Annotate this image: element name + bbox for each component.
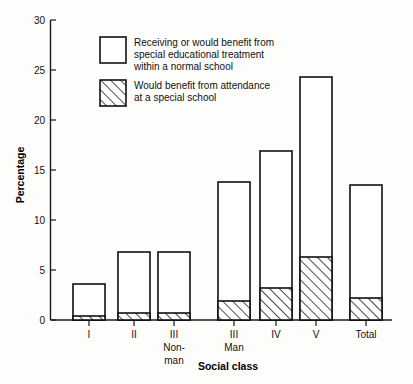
bar-hatched-III-man[interactable] — [218, 301, 250, 320]
x-label-V: V — [313, 329, 320, 340]
bar-hatched-V[interactable] — [300, 257, 332, 320]
y-axis-title: Percentage — [14, 147, 26, 204]
legend-label-hatched-line2: at a special school — [134, 92, 216, 103]
y-tick-label-15: 15 — [34, 165, 46, 176]
stacked-bar-chart: 30 25 20 15 10 5 0 Percentage — [0, 0, 413, 384]
bar-hatched-total[interactable] — [350, 298, 382, 320]
y-tick-label-20: 20 — [34, 115, 46, 126]
y-axis: 30 25 20 15 10 5 0 Percentage — [14, 15, 56, 326]
legend-item-open[interactable]: Receiving or would benefit from special … — [100, 37, 274, 72]
bar-open-II[interactable] — [118, 252, 150, 320]
x-axis-title: Social class — [198, 360, 258, 372]
bar-group-III-non-man[interactable] — [158, 252, 190, 320]
x-label-I: I — [88, 329, 91, 340]
y-tick-label-0: 0 — [39, 315, 45, 326]
bar-open-I[interactable] — [73, 284, 105, 320]
x-label-III-non-man: III — [170, 329, 178, 340]
bar-open-III-man[interactable] — [218, 182, 250, 320]
bar-group-III-man[interactable] — [218, 182, 250, 320]
bar-group-IV[interactable] — [260, 151, 292, 320]
x-label-III-non-man-line2: Non- — [163, 342, 185, 353]
x-axis-ticks — [89, 320, 366, 326]
legend-label-hatched-line1: Would benefit from attendance — [134, 80, 270, 91]
bar-group-I[interactable] — [73, 284, 105, 320]
legend-item-hatched[interactable]: Would benefit from attendance at a speci… — [100, 80, 270, 106]
bar-group-V[interactable] — [300, 77, 332, 320]
bar-hatched-I[interactable] — [73, 316, 105, 320]
x-label-IV: IV — [271, 329, 281, 340]
bar-hatched-II[interactable] — [118, 313, 150, 320]
y-tick-label-10: 10 — [34, 215, 46, 226]
x-label-II: II — [131, 329, 137, 340]
x-label-III-man-line2: Man — [224, 342, 243, 353]
legend-label-open-line2: special educational treatment — [134, 49, 264, 60]
legend-swatch-hatched — [100, 80, 126, 106]
legend-swatch-open — [100, 37, 126, 63]
y-tick-label-5: 5 — [39, 265, 45, 276]
x-label-III-non-man-line3: man — [164, 355, 183, 366]
bar-hatched-IV[interactable] — [260, 288, 292, 320]
bar-open-III-non-man[interactable] — [158, 252, 190, 320]
bar-group-II[interactable] — [118, 252, 150, 320]
bar-group-total[interactable] — [350, 185, 382, 320]
y-axis-tick-labels: 30 25 20 15 10 5 0 — [34, 15, 46, 326]
y-tick-label-25: 25 — [34, 65, 46, 76]
chart-legend: Receiving or would benefit from special … — [100, 37, 274, 106]
bar-hatched-III-non-man[interactable] — [158, 313, 190, 320]
x-label-III-man: III — [230, 329, 238, 340]
y-tick-label-30: 30 — [34, 15, 46, 26]
legend-label-open-line1: Receiving or would benefit from — [134, 37, 274, 48]
bars-group — [73, 77, 382, 320]
chart-page: 30 25 20 15 10 5 0 Percentage — [0, 0, 413, 384]
legend-label-open-line3: within a normal school — [133, 61, 233, 72]
x-label-total: Total — [355, 329, 376, 340]
y-axis-ticks — [51, 20, 57, 320]
